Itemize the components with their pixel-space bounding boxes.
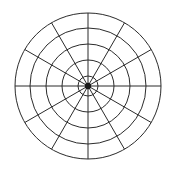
polar-center-hub — [85, 83, 91, 89]
polar-grid-svg — [0, 0, 176, 171]
polar-chart-figure — [0, 0, 176, 171]
